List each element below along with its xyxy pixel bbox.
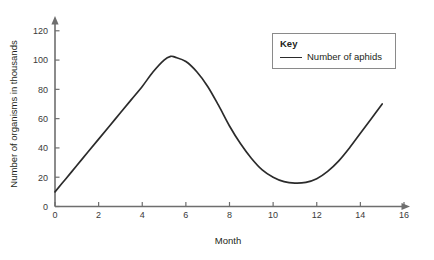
legend-line-swatch-icon bbox=[280, 57, 302, 58]
y-tick-label: 0 bbox=[43, 202, 48, 212]
x-tick-label: 0 bbox=[52, 210, 57, 220]
x-tick-label: 6 bbox=[183, 210, 188, 220]
x-tick-label: 14 bbox=[355, 210, 365, 220]
chart-figure: 020406080100120 0246810121416 Month Numb… bbox=[0, 0, 434, 260]
y-tick-label: 60 bbox=[38, 114, 48, 124]
y-tick-label: 80 bbox=[38, 85, 48, 95]
x-tick-label: 12 bbox=[312, 210, 322, 220]
y-tick-label: 120 bbox=[33, 26, 48, 36]
x-tick-label: 8 bbox=[227, 210, 232, 220]
legend-item-label: Number of aphids bbox=[307, 51, 382, 63]
x-axis-ticks: 0246810121416 bbox=[52, 202, 409, 220]
y-tick-label: 40 bbox=[38, 143, 48, 153]
chart-legend: Key Number of aphids bbox=[272, 33, 396, 69]
x-tick-label: 4 bbox=[140, 210, 145, 220]
y-tick-label: 100 bbox=[33, 55, 48, 65]
y-axis-title: Number of organisms in thousands bbox=[8, 40, 19, 188]
y-tick-label: 20 bbox=[38, 173, 48, 183]
x-tick-label: 16 bbox=[399, 210, 409, 220]
y-axis-group bbox=[51, 16, 58, 207]
x-tick-label: 2 bbox=[96, 210, 101, 220]
x-tick-label: 10 bbox=[268, 210, 278, 220]
y-axis-arrowhead bbox=[51, 16, 58, 25]
x-axis-title: Month bbox=[215, 235, 241, 246]
legend-title: Key bbox=[280, 38, 388, 50]
data-series-number-of-aphids bbox=[55, 56, 382, 192]
legend-item-number-of-aphids: Number of aphids bbox=[280, 51, 388, 63]
